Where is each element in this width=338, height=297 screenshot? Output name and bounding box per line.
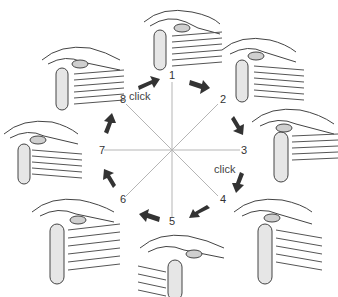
click-annotation-3-4: click [214,163,235,175]
jaw-illustrations [4,10,338,297]
jaw-illustration-6 [32,199,120,284]
arrow-7-to-8 [104,113,116,134]
arrow-4-to-5 [189,205,210,218]
diagram-canvas [0,0,338,297]
position-label-8: 8 [120,94,126,105]
arrow-3-to-4 [232,172,244,193]
tmj-cycle-diagram: 1 2 3 4 5 6 7 8 click click [0,0,338,297]
jaw-illustration-7 [4,121,82,184]
position-label-1: 1 [169,70,175,81]
click-annotation-8-1: click [129,90,150,102]
arrow-1-to-2 [189,80,210,94]
jaw-illustration-2 [222,38,304,102]
arrow-8-to-1 [138,76,160,90]
position-label-3: 3 [241,145,247,156]
jaw-illustration-1 [144,10,222,70]
position-label-6: 6 [120,194,126,205]
arrow-6-to-7 [103,169,116,188]
jaw-illustration-4 [234,199,322,284]
jaw-illustration-5 [138,235,224,297]
position-label-2: 2 [220,94,226,105]
position-label-7: 7 [99,145,105,156]
arrow-2-to-3 [231,116,244,135]
position-label-5: 5 [169,216,175,227]
jaw-illustration-8 [42,47,124,110]
arrow-5-to-6 [139,209,160,222]
jaw-illustration-3 [252,109,338,182]
position-label-4: 4 [220,194,226,205]
